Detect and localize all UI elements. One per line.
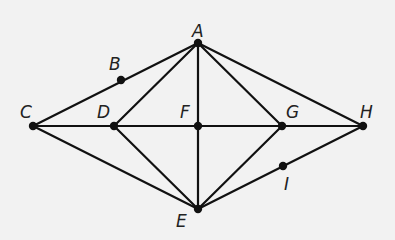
point-C <box>29 122 37 130</box>
label-F: F <box>180 102 190 122</box>
label-E: E <box>176 211 187 231</box>
label-B: B <box>109 54 121 74</box>
label-C: C <box>20 102 32 122</box>
point-E <box>194 205 202 213</box>
point-H <box>359 122 367 130</box>
edge-GA <box>198 43 282 126</box>
label-D: D <box>97 102 110 122</box>
point-B <box>117 76 125 84</box>
point-G <box>278 122 286 130</box>
point-F <box>194 122 202 130</box>
point-D <box>110 122 118 130</box>
label-H: H <box>360 102 373 122</box>
edge-CE <box>33 126 198 209</box>
label-I: I <box>284 174 289 194</box>
point-I <box>279 162 287 170</box>
edge-DE <box>114 126 198 209</box>
label-G: G <box>286 102 299 122</box>
edge-HA <box>198 43 363 126</box>
geometry-diagram: ABCDFGHIE <box>0 0 395 240</box>
label-A: A <box>191 21 204 41</box>
edge-GE <box>198 126 282 209</box>
